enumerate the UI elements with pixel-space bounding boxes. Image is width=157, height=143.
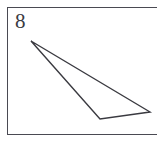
sliver-triangle-shape (31, 41, 150, 119)
triangle-canvas (0, 0, 157, 143)
figure-panel: 8 (0, 0, 157, 143)
